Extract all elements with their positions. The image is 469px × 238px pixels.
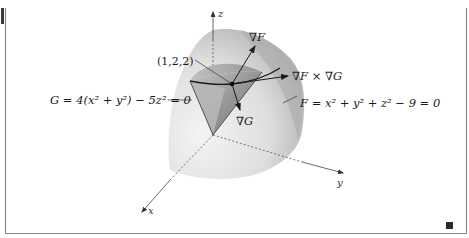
y-axis — [302, 162, 343, 173]
frame-tab — [1, 8, 4, 24]
z-axis-label: z — [217, 8, 224, 19]
cone-equation-label: G = 4(x² + y²) − 5z² = 0 — [50, 93, 191, 107]
y-axis-label: y — [336, 177, 343, 188]
diagram-canvas: z x y (1,2,2) ∇F ∇F × ∇G ∇G G = 4(x² + y… — [0, 0, 469, 238]
sphere-equation-label: F = x² + y² + z² − 9 = 0 — [299, 96, 440, 110]
x-axis-label: x — [148, 205, 154, 216]
end-mark-icon — [446, 222, 453, 229]
grad-f-label: ∇F — [249, 30, 266, 44]
cross-product-label: ∇F × ∇G — [292, 69, 342, 83]
point-label: (1,2,2) — [157, 55, 194, 68]
grad-g-label: ∇G — [236, 114, 253, 128]
x-axis — [142, 180, 170, 212]
